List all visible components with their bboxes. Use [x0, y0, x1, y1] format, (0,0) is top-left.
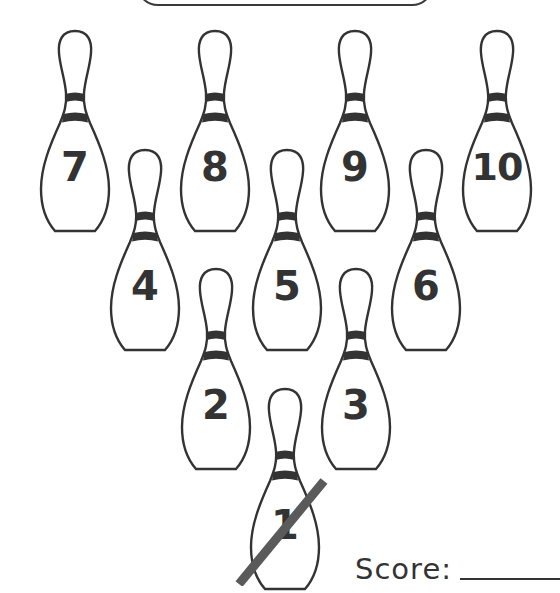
score-label: Score: — [355, 552, 452, 586]
score-input-line[interactable] — [460, 578, 560, 580]
